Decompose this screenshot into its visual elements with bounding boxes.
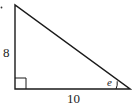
right-triangle-diagram: 8 10 e [0, 0, 132, 106]
horizontal-leg-label: 10 [67, 91, 80, 106]
right-angle-marker [15, 78, 26, 89]
triangle-outline [15, 5, 130, 89]
angle-label: e [107, 76, 112, 88]
stray-dot [1, 7, 3, 9]
vertical-leg-label: 8 [3, 45, 10, 60]
angle-arc [116, 81, 117, 89]
